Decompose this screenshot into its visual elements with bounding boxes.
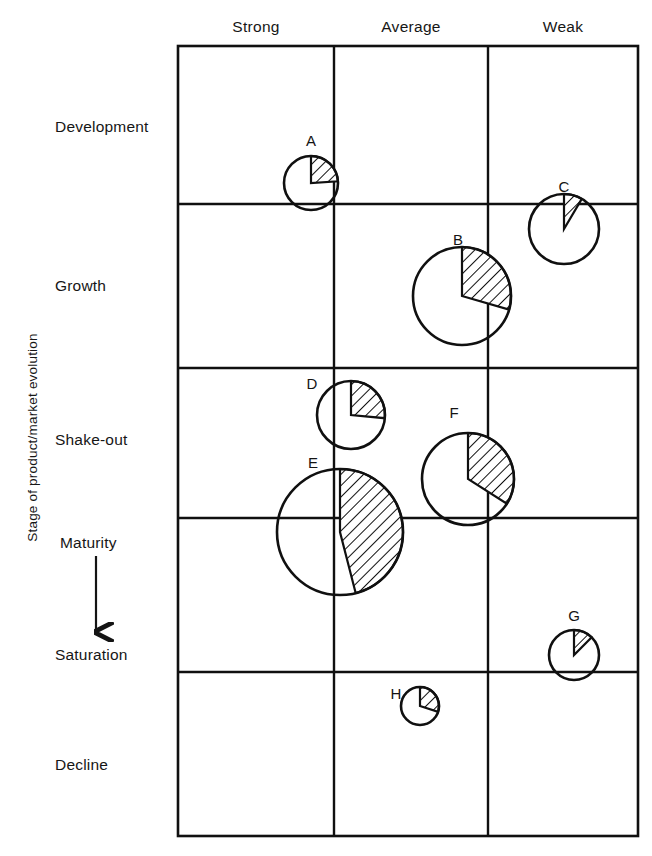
matrix-grid xyxy=(178,46,638,836)
matrix-outer-border xyxy=(178,46,638,836)
bubble-a xyxy=(284,156,338,210)
bubble-label-e: E xyxy=(308,454,318,471)
bubble-label-b: B xyxy=(453,231,463,248)
market-share-wedge-b xyxy=(462,247,511,310)
market-share-wedge-e xyxy=(340,469,403,593)
bubble-d xyxy=(317,381,385,449)
bubble-label-c: C xyxy=(559,178,570,195)
bubble-label-h: H xyxy=(391,685,402,702)
bubble-b xyxy=(413,247,511,345)
portfolio-matrix-figure: Strong Average Weak Development Growth S… xyxy=(0,0,652,856)
bubble-label-a: A xyxy=(306,132,316,149)
bubble-e xyxy=(277,469,403,595)
matrix-canvas xyxy=(0,0,652,856)
market-share-wedge-f xyxy=(468,433,514,504)
bubble-f xyxy=(422,433,514,525)
bubble-group xyxy=(277,156,599,725)
bubble-label-d: D xyxy=(307,375,318,392)
bubble-h xyxy=(401,687,439,725)
market-share-wedge-c xyxy=(564,194,582,229)
bubble-label-g: G xyxy=(568,607,580,624)
bubble-label-f: F xyxy=(449,404,458,421)
bubble-c xyxy=(529,194,599,264)
